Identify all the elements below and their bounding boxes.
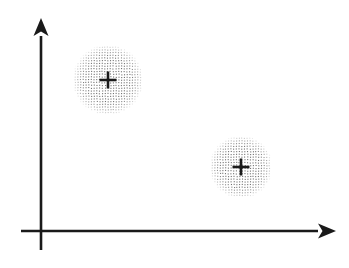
- y-axis-arrowhead-icon: [34, 18, 49, 36]
- clusters-layer: [74, 46, 270, 196]
- x-axis-arrowhead-icon: [318, 224, 336, 239]
- axes-layer: [21, 18, 336, 250]
- figure-canvas: [0, 0, 349, 268]
- scatter-cluster-figure: [0, 0, 349, 268]
- cluster-2-plus-marker: [233, 159, 250, 176]
